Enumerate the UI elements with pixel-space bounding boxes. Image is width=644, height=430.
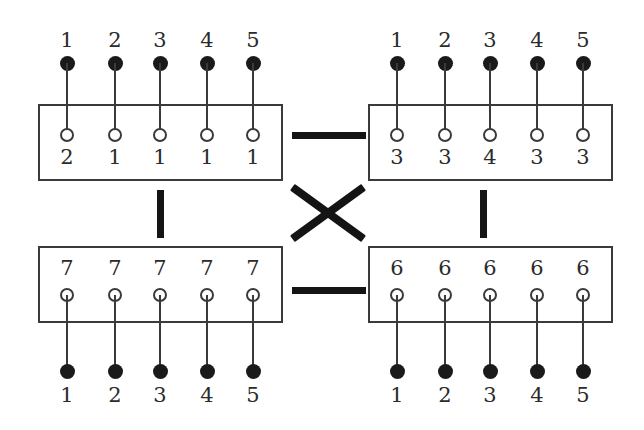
box-top-right-open-node-2: [438, 128, 452, 142]
box-top-right-inner-label-4: 3: [525, 147, 549, 168]
box-top-right-stem-2: [444, 63, 446, 131]
box-bottom-left-outer-label-1: 1: [55, 385, 79, 406]
figure-canvas: 1 2 2 1 3 1 4 1 5 1 1 3: [0, 0, 644, 430]
box-top-right-inner-label-5: 3: [571, 147, 595, 168]
box-bottom-right-stem-3: [489, 295, 491, 368]
box-top-left-stem-3: [159, 63, 161, 131]
box-top-right-stem-5: [582, 63, 584, 131]
box-top-right-open-node-5: [576, 128, 590, 142]
box-bottom-left-outer-label-4: 4: [195, 385, 219, 406]
box-top-left-open-node-5: [246, 128, 260, 142]
box-bottom-right-filled-node-2: [438, 364, 453, 379]
box-top-left-open-node-3: [153, 128, 167, 142]
box-top-right-outer-label-4: 4: [525, 30, 549, 51]
box-bottom-left-filled-node-2: [108, 364, 123, 379]
box-bottom-left-filled-node-3: [153, 364, 168, 379]
box-top-left-stem-2: [114, 63, 116, 131]
box-top-right-stem-4: [536, 63, 538, 131]
connector-top-horizontal-bar: [292, 132, 366, 139]
box-bottom-left-stem-2: [114, 295, 116, 368]
box-top-right-inner-label-1: 3: [385, 147, 409, 168]
box-bottom-right-outer-label-4: 4: [525, 385, 549, 406]
box-top-left-outer-label-5: 5: [241, 30, 265, 51]
connector-bottom-horizontal-bar: [292, 287, 366, 294]
box-bottom-right-stem-5: [582, 295, 584, 368]
box-bottom-right-stem-4: [536, 295, 538, 368]
box-bottom-right-outer-label-3: 3: [478, 385, 502, 406]
box-bottom-left-filled-node-4: [200, 364, 215, 379]
box-top-left-stem-1: [66, 63, 68, 131]
box-bottom-right-outer-label-2: 2: [433, 385, 457, 406]
box-top-left-outer-label-2: 2: [103, 30, 127, 51]
box-bottom-right-inner-label-4: 6: [525, 258, 549, 279]
box-bottom-left-stem-3: [159, 295, 161, 368]
box-top-left-outer-label-4: 4: [195, 30, 219, 51]
box-bottom-right-filled-node-5: [576, 364, 591, 379]
box-top-right-stem-1: [396, 63, 398, 131]
box-top-left-open-node-2: [108, 128, 122, 142]
box-bottom-right-filled-node-4: [530, 364, 545, 379]
box-top-right-outer-label-3: 3: [478, 30, 502, 51]
box-bottom-left-stem-5: [252, 295, 254, 368]
box-bottom-right-stem-2: [444, 295, 446, 368]
box-bottom-right-filled-node-1: [390, 364, 405, 379]
connector-right-vertical-bar: [480, 190, 487, 238]
box-bottom-left-filled-node-5: [246, 364, 261, 379]
box-top-right-stem-3: [489, 63, 491, 131]
box-top-left-inner-label-5: 1: [241, 147, 265, 168]
box-bottom-left-outer-label-5: 5: [241, 385, 265, 406]
box-top-left-inner-label-1: 2: [55, 147, 79, 168]
box-bottom-right-stem-1: [396, 295, 398, 368]
box-top-left-inner-label-2: 1: [103, 147, 127, 168]
box-top-left-inner-label-4: 1: [195, 147, 219, 168]
box-bottom-left-inner-label-1: 7: [55, 258, 79, 279]
connector-left-vertical-bar: [157, 190, 164, 238]
box-bottom-left-inner-label-4: 7: [195, 258, 219, 279]
box-bottom-left-inner-label-2: 7: [103, 258, 127, 279]
box-top-right-outer-label-1: 1: [385, 30, 409, 51]
box-top-right-open-node-4: [530, 128, 544, 142]
box-top-right-open-node-1: [390, 128, 404, 142]
box-bottom-right-inner-label-2: 6: [433, 258, 457, 279]
box-bottom-left-inner-label-3: 7: [148, 258, 172, 279]
box-bottom-left-outer-label-2: 2: [103, 385, 127, 406]
box-top-left-inner-label-3: 1: [148, 147, 172, 168]
box-bottom-right-outer-label-1: 1: [385, 385, 409, 406]
box-bottom-left-stem-4: [206, 295, 208, 368]
box-bottom-right-outer-label-5: 5: [571, 385, 595, 406]
box-top-right-outer-label-2: 2: [433, 30, 457, 51]
box-bottom-left-outer-label-3: 3: [148, 385, 172, 406]
box-bottom-left-stem-1: [66, 295, 68, 368]
box-top-left-stem-5: [252, 63, 254, 131]
box-bottom-left-filled-node-1: [60, 364, 75, 379]
box-bottom-right-inner-label-5: 6: [571, 258, 595, 279]
box-top-left-stem-4: [206, 63, 208, 131]
box-top-left-open-node-1: [60, 128, 74, 142]
box-top-left-outer-label-3: 3: [148, 30, 172, 51]
box-bottom-right-inner-label-1: 6: [385, 258, 409, 279]
box-bottom-right-filled-node-3: [483, 364, 498, 379]
box-bottom-left-inner-label-5: 7: [241, 258, 265, 279]
box-top-right-outer-label-5: 5: [571, 30, 595, 51]
box-top-right-inner-label-2: 3: [433, 147, 457, 168]
box-top-right-inner-label-3: 4: [478, 147, 502, 168]
box-top-right-open-node-3: [483, 128, 497, 142]
box-top-left-outer-label-1: 1: [55, 30, 79, 51]
box-top-left-open-node-4: [200, 128, 214, 142]
box-bottom-right-inner-label-3: 6: [478, 258, 502, 279]
